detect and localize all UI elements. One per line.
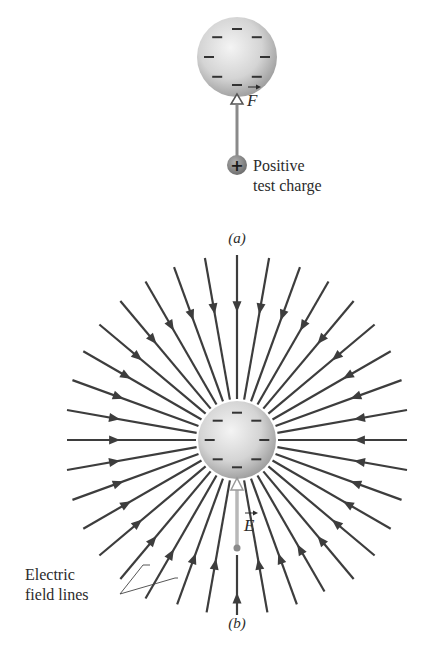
field-line-arrowhead: [112, 481, 124, 489]
field-line: [277, 410, 407, 433]
positive-test-charge: +: [227, 155, 247, 175]
panel-b: E Electric field lines (b): [25, 255, 407, 632]
field-line-arrowhead: [257, 303, 266, 315]
field-line: [207, 480, 230, 612]
field-line-arrowhead: [280, 309, 288, 321]
field-line-arrowhead: [350, 481, 362, 489]
field-line-arrowhead: [108, 413, 120, 422]
panel-a: F + Positive test charge (a): [197, 17, 322, 247]
field-line-arrowhead: [278, 553, 286, 565]
field-line: [244, 480, 267, 612]
svg-text:F: F: [246, 91, 258, 110]
field-line: [72, 454, 198, 500]
field-line-arrowhead: [109, 436, 120, 445]
field-line: [72, 380, 198, 426]
field-line-arrowhead: [233, 593, 242, 604]
svg-text:+: +: [230, 156, 243, 175]
panel-a-caption: (a): [228, 230, 246, 247]
field-line-arrowhead: [255, 559, 264, 571]
force-vector-arrow: [231, 94, 243, 162]
field-line-arrowhead: [188, 553, 196, 565]
field-line-arrowhead: [350, 391, 362, 399]
svg-text:E: E: [243, 516, 255, 535]
field-line: [67, 410, 197, 433]
field-line: [244, 258, 269, 400]
field-line: [251, 479, 297, 605]
electric-field-figure: F + Positive test charge (a) E Elect: [0, 0, 421, 645]
field-line: [174, 267, 223, 401]
field-line: [67, 447, 197, 470]
field-line-arrowhead: [354, 436, 365, 445]
field-line: [277, 447, 407, 470]
field-line: [276, 380, 402, 426]
field-line: [276, 454, 402, 500]
field-lines-label-line2: field lines: [25, 586, 89, 603]
test-charge-label-line1: Positive: [253, 157, 305, 174]
field-line: [177, 479, 223, 605]
field-vector-arrow: [231, 478, 243, 552]
field-line-arrowhead: [108, 458, 120, 467]
field-line-arrowhead: [354, 413, 366, 422]
field-line-arrowhead: [210, 559, 219, 571]
field-lines-label-line1: Electric: [25, 566, 75, 583]
panel-b-caption: (b): [228, 615, 246, 632]
field-line: [205, 258, 230, 400]
field-line-arrowhead: [112, 391, 124, 399]
field-line-arrowhead: [186, 309, 194, 321]
test-charge-label-line2: test charge: [253, 177, 322, 195]
field-line-arrowhead: [233, 301, 242, 312]
field-line-arrowhead: [209, 303, 218, 315]
field-line: [251, 267, 300, 401]
field-line-arrowhead: [354, 458, 366, 467]
